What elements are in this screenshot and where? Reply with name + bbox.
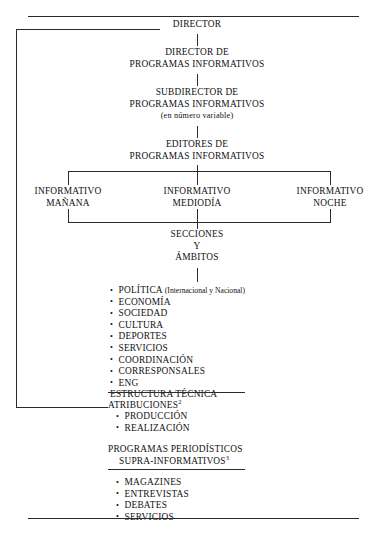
estructura-tecnica-underline bbox=[108, 392, 245, 393]
node-informativo-manana-line-2: MAÑANA bbox=[13, 198, 123, 210]
list-item-label: ENTREVISTAS bbox=[125, 489, 189, 499]
node-secciones-line-1: SECCIONES bbox=[127, 229, 267, 241]
list-item: POLÍTICA (Internacional y Nacional) bbox=[110, 285, 245, 297]
org-chart-diagram: DIRECTOR DIRECTOR DE PROGRAMAS INFORMATI… bbox=[0, 0, 387, 534]
list-item: CULTURA bbox=[110, 320, 245, 332]
top-page-rule bbox=[28, 16, 359, 17]
node-editores: EDITORES DE PROGRAMAS INFORMATIVOS bbox=[97, 139, 297, 162]
list-item-qualifier: (Internacional y Nacional) bbox=[165, 286, 245, 295]
list-item: DEPORTES bbox=[110, 331, 245, 343]
list-item-label: SOCIEDAD bbox=[119, 308, 168, 318]
supra-heading-line-2-text: SUPRA-INFORMATIVOS bbox=[119, 456, 226, 466]
list-item-label: COORDINACIÓN bbox=[119, 355, 194, 365]
bottom-page-rule bbox=[28, 518, 359, 519]
list-item-label: ESTRUCTURA TÉCNICA bbox=[110, 389, 217, 399]
list-item: ECONOMÍA bbox=[110, 297, 245, 309]
list-item: COORDINACIÓN bbox=[110, 355, 245, 367]
connector-secciones-to-list bbox=[197, 268, 198, 282]
list-item: PRODUCCIÓN bbox=[116, 411, 190, 423]
secciones-list: POLÍTICA (Internacional y Nacional) ECON… bbox=[110, 285, 245, 401]
branch-rise-manana bbox=[68, 209, 69, 223]
supra-heading-line-1: PROGRAMAS PERIODÍSTICOS bbox=[108, 444, 243, 456]
list-item-label: CULTURA bbox=[119, 320, 164, 330]
atribuciones-left-branch-line bbox=[16, 407, 108, 408]
node-director-programas: DIRECTOR DE PROGRAMAS INFORMATIVOS bbox=[97, 47, 297, 70]
list-item-label: ECONOMÍA bbox=[119, 297, 171, 307]
atribuciones-list: PRODUCCIÓN REALIZACIÓN bbox=[116, 411, 190, 434]
supra-footnote-marker: 3 bbox=[226, 453, 229, 460]
connector-subdirector-to-editores bbox=[197, 126, 198, 138]
node-subdirector: SUBDIRECTOR DE PROGRAMAS INFORMATIVOS (e… bbox=[97, 87, 297, 122]
branch-bar-top bbox=[68, 171, 331, 172]
list-item-label: DEBATES bbox=[125, 500, 168, 510]
node-informativo-mediodia-line-1: INFORMATIVO bbox=[142, 186, 252, 198]
branch-drop-mediodia bbox=[197, 171, 198, 185]
supra-informativos-list: MAGAZINES ENTREVISTAS DEBATES SERVICIOS bbox=[116, 477, 189, 523]
supra-heading-line-2: SUPRA-INFORMATIVOS3 bbox=[108, 456, 243, 468]
list-item-label: REALIZACIÓN bbox=[125, 423, 190, 433]
node-secciones-line-2: Y bbox=[127, 241, 267, 253]
list-item-label: POLÍTICA bbox=[119, 285, 163, 295]
atribuciones-heading: ATRIBUCIONES2 bbox=[108, 400, 182, 412]
left-outer-vertical-line bbox=[16, 29, 17, 408]
node-secciones-line-3: ÁMBITOS bbox=[127, 252, 267, 264]
connector-director-to-director-programas bbox=[197, 34, 198, 46]
list-item: ENG bbox=[110, 378, 245, 390]
node-informativo-mediodia-line-2: MEDIODÍA bbox=[142, 198, 252, 210]
node-editores-line-2: PROGRAMAS INFORMATIVOS bbox=[97, 151, 297, 163]
node-informativo-noche: INFORMATIVO NOCHE bbox=[275, 186, 385, 209]
node-editores-line-1: EDITORES DE bbox=[97, 139, 297, 151]
branch-drop-manana bbox=[68, 171, 69, 185]
node-informativo-noche-line-2: NOCHE bbox=[275, 198, 385, 210]
list-item-label: ENG bbox=[119, 378, 139, 388]
list-item: MAGAZINES bbox=[116, 477, 189, 489]
node-subdirector-line-1: SUBDIRECTOR DE bbox=[97, 87, 297, 99]
list-item-label: MAGAZINES bbox=[125, 477, 182, 487]
supra-informativos-heading: PROGRAMAS PERIODÍSTICOS SUPRA-INFORMATIV… bbox=[108, 444, 243, 467]
node-director: DIRECTOR bbox=[97, 19, 297, 31]
node-informativo-manana-line-1: INFORMATIVO bbox=[13, 186, 123, 198]
list-item: SOCIEDAD bbox=[110, 308, 245, 320]
node-director-programas-line-2: PROGRAMAS INFORMATIVOS bbox=[97, 59, 297, 71]
node-secciones-ambitos: SECCIONES Y ÁMBITOS bbox=[127, 229, 267, 264]
node-director-programas-line-1: DIRECTOR DE bbox=[97, 47, 297, 59]
node-informativo-manana: INFORMATIVO MAÑANA bbox=[13, 186, 123, 209]
connector-branch-bar-to-secciones bbox=[197, 222, 198, 229]
node-subdirector-note: (en número variable) bbox=[97, 110, 297, 122]
node-informativo-mediodia: INFORMATIVO MEDIODÍA bbox=[142, 186, 252, 209]
list-item: DEBATES bbox=[116, 500, 189, 512]
list-item-label: CORRESPONSALES bbox=[119, 366, 206, 376]
atribuciones-heading-text: ATRIBUCIONES bbox=[108, 400, 178, 410]
list-item-label: DEPORTES bbox=[119, 331, 167, 341]
supra-informativos-underline bbox=[108, 469, 245, 470]
node-director-line-1: DIRECTOR bbox=[97, 19, 297, 31]
atribuciones-footnote-marker: 2 bbox=[178, 398, 181, 405]
atribuciones-heading-line: ATRIBUCIONES2 bbox=[108, 400, 182, 412]
list-item: CORRESPONSALES bbox=[110, 366, 245, 378]
branch-bar-bottom bbox=[68, 222, 331, 223]
list-item: ENTREVISTAS bbox=[116, 489, 189, 501]
node-subdirector-line-2: PROGRAMAS INFORMATIVOS bbox=[97, 99, 297, 111]
node-informativo-noche-line-1: INFORMATIVO bbox=[275, 186, 385, 198]
branch-drop-noche bbox=[330, 171, 331, 185]
list-item-label: PRODUCCIÓN bbox=[125, 411, 188, 421]
list-item-label: SERVICIOS bbox=[119, 343, 169, 353]
branch-rise-noche bbox=[330, 209, 331, 223]
list-item: SERVICIOS bbox=[110, 343, 245, 355]
branch-rise-mediodia bbox=[197, 209, 198, 223]
list-item-label: SERVICIOS bbox=[125, 512, 175, 522]
connector-director-programas-to-subdirector bbox=[197, 74, 198, 86]
list-item: REALIZACIÓN bbox=[116, 423, 190, 435]
